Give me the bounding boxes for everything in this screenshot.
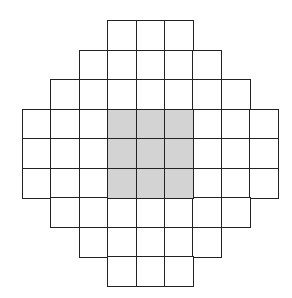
grid-cell	[107, 79, 137, 110]
grid-cell	[164, 197, 194, 228]
grid-cell	[136, 227, 166, 258]
grid-cell	[192, 227, 222, 258]
grid-cell	[107, 20, 137, 51]
grid-cell	[107, 256, 137, 287]
grid-cell	[221, 138, 251, 169]
grid-cell	[164, 50, 194, 81]
grid-cell	[79, 109, 109, 140]
grid-cell	[221, 168, 251, 199]
grid-cell	[192, 168, 222, 199]
grid-cell	[136, 50, 166, 81]
grid-cell	[107, 197, 137, 228]
grid-cell	[136, 79, 166, 110]
grid-cell	[192, 50, 222, 81]
grid-cell	[79, 79, 109, 110]
grid-cell	[192, 197, 222, 228]
grid-cell	[50, 79, 80, 110]
grid-cell-shaded	[164, 168, 194, 199]
grid-cell	[164, 256, 194, 287]
diamond-grid-diagram	[0, 0, 292, 298]
grid-cell	[221, 197, 251, 228]
grid-cell	[79, 227, 109, 258]
grid-cell	[249, 168, 279, 199]
grid-cell	[221, 109, 251, 140]
grid-cell	[50, 168, 80, 199]
grid-cell	[79, 168, 109, 199]
grid-cell	[164, 227, 194, 258]
grid-cell	[136, 197, 166, 228]
grid-cell	[164, 79, 194, 110]
grid-cell	[249, 109, 279, 140]
grid-cell	[22, 109, 52, 140]
grid-cell-shaded	[136, 109, 166, 140]
grid-cell-shaded	[136, 138, 166, 169]
grid-cell	[164, 20, 194, 51]
grid-cell	[79, 197, 109, 228]
grid-cell	[192, 79, 222, 110]
grid-cell-shaded	[164, 138, 194, 169]
grid-cell	[79, 50, 109, 81]
grid-cell-shaded	[136, 168, 166, 199]
grid-cell-shaded	[107, 168, 137, 199]
grid-cell	[50, 197, 80, 228]
grid-cell	[50, 138, 80, 169]
grid-cell	[79, 138, 109, 169]
grid-cell	[136, 20, 166, 51]
grid-cell-shaded	[107, 138, 137, 169]
grid-cell	[192, 138, 222, 169]
grid-cell	[249, 138, 279, 169]
grid-cell	[136, 256, 166, 287]
grid-cell	[50, 109, 80, 140]
grid-cell	[22, 138, 52, 169]
grid-cell	[192, 109, 222, 140]
grid-cell	[107, 50, 137, 81]
grid-cell	[107, 227, 137, 258]
grid-cell	[221, 79, 251, 110]
grid-cell-shaded	[164, 109, 194, 140]
grid-cell-shaded	[107, 109, 137, 140]
grid-cell	[22, 168, 52, 199]
